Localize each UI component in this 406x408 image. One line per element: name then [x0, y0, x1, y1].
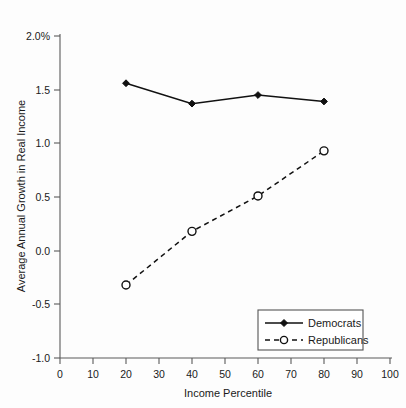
x-tick-label: 30 — [153, 368, 165, 380]
series-democrats — [123, 80, 328, 107]
y-tick-label: -1.0 — [32, 352, 50, 364]
data-point-marker-open-circle — [254, 192, 262, 200]
republicans-line — [126, 151, 324, 285]
y-tick-label: 1.5 — [35, 84, 50, 96]
legend-marker-open-circle-icon — [280, 336, 287, 343]
y-axis-ticks — [54, 36, 60, 358]
x-tick-label: 50 — [219, 368, 231, 380]
chart-container: 2.0% 1.5 1.0 0.5 0.0 -0.5 -1.0 0 10 2 — [0, 0, 406, 408]
y-tick-label: -0.5 — [32, 298, 50, 310]
x-tick-label: 60 — [252, 368, 264, 380]
x-tick-label: 80 — [318, 368, 330, 380]
data-point-marker-open-circle — [122, 281, 130, 289]
data-point-marker-filled-diamond — [255, 92, 262, 99]
line-chart-svg: 2.0% 1.5 1.0 0.5 0.0 -0.5 -1.0 0 10 2 — [0, 0, 406, 408]
x-tick-label: 90 — [351, 368, 363, 380]
x-axis-tick-labels: 0 10 20 30 40 50 60 70 80 90 100 — [57, 368, 399, 380]
data-point-marker-filled-diamond — [123, 80, 130, 87]
y-tick-label: 1.0 — [35, 137, 50, 149]
chart-legend[interactable]: Democrats Republicans — [258, 310, 369, 350]
x-tick-label: 0 — [57, 368, 63, 380]
legend-label-democrats: Democrats — [308, 317, 362, 329]
data-point-marker-filled-diamond — [321, 98, 328, 105]
x-tick-label: 100 — [381, 368, 399, 380]
y-axis-title: Average Annual Growth in Real Income — [15, 100, 27, 292]
series-republicans — [122, 147, 328, 289]
data-point-marker-open-circle — [188, 227, 196, 235]
x-tick-label: 20 — [120, 368, 132, 380]
x-tick-label: 10 — [87, 368, 99, 380]
legend-label-republicans: Republicans — [308, 334, 369, 346]
republicans-markers — [122, 147, 328, 289]
data-point-marker-filled-diamond — [189, 100, 196, 107]
democrats-markers — [123, 80, 328, 107]
y-tick-label: 0.5 — [35, 191, 50, 203]
x-tick-label: 40 — [186, 368, 198, 380]
x-tick-label: 70 — [285, 368, 297, 380]
y-tick-label: 2.0% — [26, 30, 50, 42]
data-point-marker-open-circle — [320, 147, 328, 155]
y-tick-label: 0.0 — [35, 245, 50, 257]
x-axis-title: Income Percentile — [184, 387, 272, 399]
democrats-line — [126, 83, 324, 103]
y-axis-tick-labels: 2.0% 1.5 1.0 0.5 0.0 -0.5 -1.0 — [26, 30, 50, 364]
x-axis-ticks — [60, 358, 390, 364]
